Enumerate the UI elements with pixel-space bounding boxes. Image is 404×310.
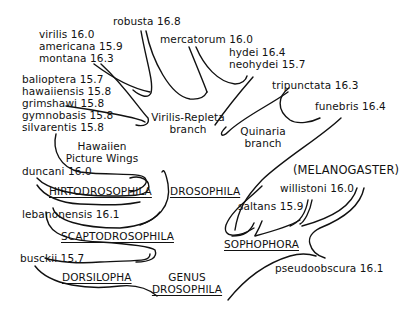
- species-mercatorum: mercatorum 16.0: [160, 33, 253, 45]
- species-busckii: busckii 15.7: [20, 252, 84, 264]
- species-grimshawi: grimshawi 15.8: [22, 97, 104, 109]
- group-melanogaster: (MELANOGASTER): [293, 164, 399, 176]
- genus-line1: GENUS: [147, 271, 227, 283]
- species-virilis: virilis 16.0: [39, 28, 95, 40]
- species-gymnobasis: gymnobasis 15.8: [22, 109, 113, 121]
- group-quinaria-line2: branch: [233, 137, 293, 149]
- subgenus-dorsilopha: DORSILOPHA: [62, 271, 132, 283]
- species-hydei: hydei 16.4: [229, 46, 286, 58]
- species-pseudoobscura: pseudoobscura 16.1: [275, 262, 384, 274]
- branch-mercatorum: [189, 47, 207, 92]
- genus-line2: DROSOPHILA: [147, 283, 227, 295]
- species-duncani: duncani 16.0: [22, 165, 92, 177]
- subgenus-scaptodrosophila: SCAPTODROSOPHILA: [61, 230, 174, 242]
- species-americana: americana 15.9: [39, 40, 123, 52]
- species-hawaiiensis: hawaiiensis 15.8: [22, 85, 111, 97]
- species-neohydei: neohydei 15.7: [229, 58, 305, 70]
- genus-drosophila: GENUS DROSOPHILA: [147, 271, 227, 295]
- group-hawaiien-picture-wings: Hawaiien Picture Wings: [62, 140, 142, 164]
- branch-saltans-2: [255, 220, 300, 236]
- group-virilis-repleta-line2: branch: [148, 123, 228, 135]
- phylogeny-diagram: robusta 16.8 virilis 16.0 americana 15.9…: [0, 0, 404, 310]
- species-funebris: funebris 16.4: [315, 100, 386, 112]
- group-hawaiien-line1: Hawaiien: [62, 140, 142, 152]
- species-silvarentis: silvarentis 15.8: [22, 121, 104, 133]
- species-balioptera: balioptera 15.7: [22, 73, 104, 85]
- branch-genus: [228, 254, 316, 300]
- group-virilis-repleta-line1: Virilis-Repleta: [148, 111, 228, 123]
- species-willistoni: willistoni 16.0: [280, 182, 354, 194]
- subgenus-hirtodrosophila: HIRTODROSOPHILA: [49, 185, 152, 197]
- species-tripunctata: tripunctata 16.3: [272, 79, 359, 91]
- group-quinaria-line1: Quinaria: [233, 125, 293, 137]
- species-robusta: robusta 16.8: [113, 15, 181, 27]
- branch-melanogaster-2: [309, 188, 364, 258]
- group-quinaria: Quinaria branch: [233, 125, 293, 149]
- species-saltans: saltans 15.9: [238, 200, 303, 212]
- group-virilis-repleta: Virilis-Repleta branch: [148, 111, 228, 135]
- group-hawaiien-line2: Picture Wings: [62, 152, 142, 164]
- subgenus-sophophora: SOPHOPHORA: [224, 238, 299, 250]
- species-lebanonensis: lebanonensis 16.1: [22, 208, 120, 220]
- subgenus-drosophila: DROSOPHILA: [170, 185, 240, 197]
- species-montana: montana 16.3: [39, 52, 114, 64]
